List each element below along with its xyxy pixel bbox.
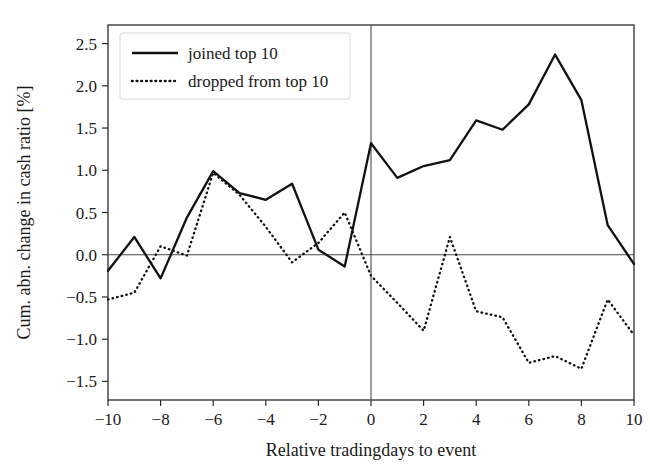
y-tick-label: −1.0: [66, 330, 97, 349]
x-tick-label: −2: [309, 410, 327, 429]
x-axis-label: Relative tradingdays to event: [266, 440, 476, 460]
y-tick-label: 2.0: [76, 77, 97, 96]
x-tick-label: −10: [95, 410, 122, 429]
cumulative-abnormal-cash-ratio-chart: −1.5−1.0−0.50.00.51.01.52.02.5 −10−8−6−4…: [0, 0, 650, 476]
x-tick-label: 2: [419, 410, 428, 429]
y-tick-label: −0.5: [66, 288, 97, 307]
x-tick-label: −4: [257, 410, 276, 429]
legend-label-dropped-from-top-10: dropped from top 10: [188, 72, 328, 91]
y-tick-label: 1.0: [76, 161, 97, 180]
y-tick-label: −1.5: [66, 372, 97, 391]
x-tick-label: −8: [152, 410, 170, 429]
figure-container: −1.5−1.0−0.50.00.51.01.52.02.5 −10−8−6−4…: [0, 0, 650, 476]
y-axis-ticks: −1.5−1.0−0.50.00.51.01.52.02.5: [66, 35, 108, 392]
x-tick-label: 0: [367, 410, 376, 429]
x-tick-label: 6: [525, 410, 534, 429]
x-tick-label: 8: [577, 410, 586, 429]
legend-label-joined-top-10: joined top 10: [187, 44, 278, 63]
x-tick-label: −6: [204, 410, 222, 429]
y-axis-label: Cum. abn. change in cash ratio [%]: [14, 86, 34, 340]
y-tick-label: 0.0: [76, 246, 97, 265]
chart-legend: joined top 10 dropped from top 10: [120, 33, 350, 99]
x-axis-ticks: −10−8−6−4−20246810: [95, 400, 643, 429]
x-tick-label: 4: [472, 410, 481, 429]
y-tick-label: 1.5: [76, 119, 97, 138]
y-tick-label: 0.5: [76, 204, 97, 223]
y-tick-label: 2.5: [76, 35, 97, 54]
x-tick-label: 10: [626, 410, 643, 429]
